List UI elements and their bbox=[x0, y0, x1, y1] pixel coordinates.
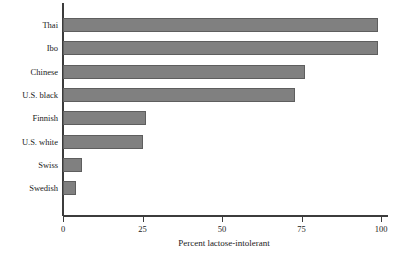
x-tick-label: 50 bbox=[218, 224, 227, 234]
bar-row bbox=[63, 111, 146, 125]
bar bbox=[63, 18, 378, 32]
x-tick-mark bbox=[222, 216, 223, 222]
bar bbox=[63, 65, 305, 79]
bar-row bbox=[63, 158, 82, 172]
lactose-intolerance-bar-chart: ThaiIboChineseU.S. blackFinnishU.S. whit… bbox=[0, 0, 412, 259]
bar bbox=[63, 111, 146, 125]
bar bbox=[63, 135, 143, 149]
x-tick-label: 25 bbox=[138, 224, 147, 234]
bar-row bbox=[63, 88, 295, 102]
bar bbox=[63, 158, 82, 172]
bar bbox=[63, 181, 76, 195]
bar-row bbox=[63, 65, 305, 79]
bar-row bbox=[63, 135, 143, 149]
bar-row bbox=[63, 181, 76, 195]
x-tick-label: 75 bbox=[297, 224, 306, 234]
x-tick-mark bbox=[63, 216, 64, 222]
x-tick-mark bbox=[381, 216, 382, 222]
x-tick-mark bbox=[302, 216, 303, 222]
x-tick-label: 100 bbox=[375, 224, 388, 234]
x-tick-label: 0 bbox=[61, 224, 65, 234]
x-tick-mark bbox=[143, 216, 144, 222]
bar-row bbox=[63, 18, 378, 32]
bars-layer bbox=[0, 0, 412, 259]
bar bbox=[63, 41, 378, 55]
x-axis-title: Percent lactose-intolerant bbox=[63, 238, 385, 248]
bar bbox=[63, 88, 295, 102]
bar-row bbox=[63, 41, 378, 55]
